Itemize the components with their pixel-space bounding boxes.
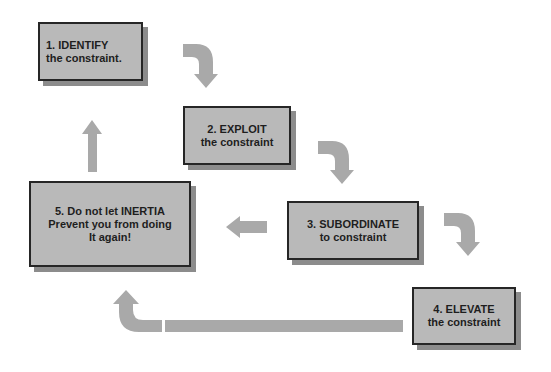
step2-exploit-box: 2. EXPLOIT the constraint xyxy=(183,106,291,165)
step3-subordinate-box: 3. SUBORDINATE to constraint xyxy=(287,201,419,260)
step2-title: 2. EXPLOIT xyxy=(207,123,266,136)
step2-subtitle: the constraint xyxy=(201,136,274,149)
curved-arrow-step1-to-step2-icon xyxy=(183,44,218,88)
step5-title: 5. Do not let INERTIA xyxy=(55,205,165,218)
step4-subtitle: the constraint xyxy=(428,316,501,329)
up-arrow-step5-to-step1-icon xyxy=(82,120,102,172)
long-bar-step4-to-step5-icon xyxy=(165,320,403,332)
step1-title: 1. IDENTIFY xyxy=(46,39,108,52)
curved-arrow-step3-to-step4-icon xyxy=(444,213,480,256)
step1-identify-box: 1. IDENTIFY the constraint. xyxy=(38,22,143,81)
step3-title: 3. SUBORDINATE xyxy=(307,218,399,231)
step1-subtitle: the constraint. xyxy=(46,52,122,65)
left-arrow-step3-to-step5-icon xyxy=(226,216,267,238)
curved-up-arrow-to-step5-icon xyxy=(113,290,162,332)
curved-arrow-step2-to-step3-icon xyxy=(318,141,354,184)
step3-subtitle: to constraint xyxy=(320,231,387,244)
step5-line2: Prevent you from doing xyxy=(48,218,171,231)
step4-title: 4. ELEVATE xyxy=(433,303,494,316)
step5-line3: It again! xyxy=(89,231,131,244)
step4-elevate-box: 4. ELEVATE the constraint xyxy=(412,287,516,345)
step5-inertia-box: 5. Do not let INERTIA Prevent you from d… xyxy=(29,181,191,267)
